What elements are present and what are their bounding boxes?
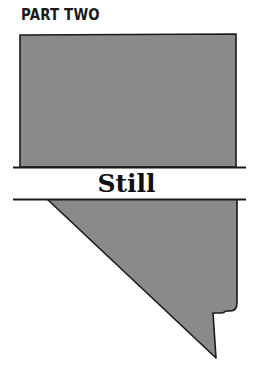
upper-shape: [20, 34, 236, 167]
lower-shape: [47, 199, 237, 358]
band-word: Still: [0, 168, 259, 199]
